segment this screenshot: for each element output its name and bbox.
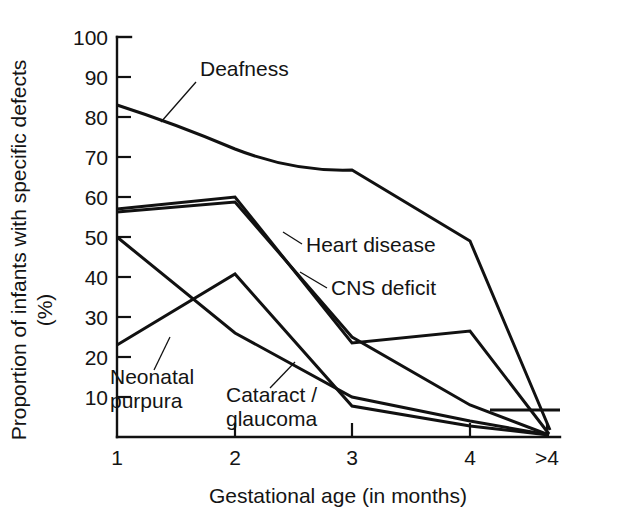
y-tick-label-30: 30 — [85, 306, 108, 329]
y-axis-title-line2: (%) — [33, 294, 56, 327]
series-label-neonatal-purpura-line1: Neonatal — [110, 365, 194, 388]
y-tick-label-70: 70 — [85, 146, 108, 169]
y-tick-label-60: 60 — [85, 186, 108, 209]
x-tick-labels: 1 2 3 4 >4 — [111, 446, 559, 469]
series-label-cataract-glaucoma-line1: Cataract / — [226, 383, 317, 406]
x-axis-title: Gestational age (in months) — [209, 484, 467, 507]
y-tick-label-50: 50 — [85, 226, 108, 249]
y-tick-label-40: 40 — [85, 266, 108, 289]
y-tick-label-100: 100 — [73, 26, 108, 49]
x-tick-label-3: 3 — [346, 446, 358, 469]
series-label-deafness: Deafness — [200, 57, 289, 80]
series-label-neonatal-purpura-line2: purpura — [110, 389, 183, 412]
y-tick-label-20: 20 — [85, 346, 108, 369]
x-tick-label-4: 4 — [464, 446, 476, 469]
series-label-cataract-glaucoma-line2: glaucoma — [226, 407, 317, 430]
x-tick-label-gt4: >4 — [535, 446, 559, 469]
x-tick-label-1: 1 — [111, 446, 123, 469]
x-tick-label-2: 2 — [229, 446, 241, 469]
series-label-heart-disease: Heart disease — [306, 233, 436, 256]
y-tick-label-80: 80 — [85, 106, 108, 129]
series-label-cns-deficit: CNS deficit — [331, 276, 436, 299]
y-axis-title-line1: Proportion of infants with specific defe… — [7, 60, 30, 441]
y-tick-label-10: 10 — [85, 386, 108, 409]
y-tick-label-90: 90 — [85, 66, 108, 89]
line-chart-figure: 100 90 80 70 60 50 40 30 20 10 1 2 3 4 >… — [0, 0, 632, 520]
leader-line-deafness — [161, 82, 196, 122]
y-tick-labels: 100 90 80 70 60 50 40 30 20 10 — [73, 26, 108, 409]
chart-canvas: 100 90 80 70 60 50 40 30 20 10 1 2 3 4 >… — [0, 0, 632, 520]
leader-line-heart-disease — [283, 232, 302, 244]
